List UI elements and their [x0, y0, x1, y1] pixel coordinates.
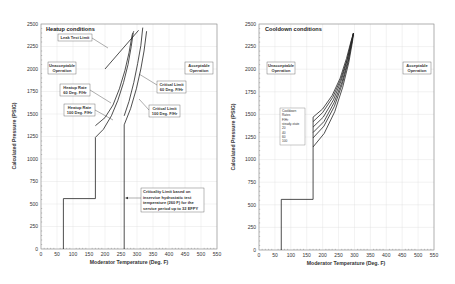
heatup-plot: 02505007501000125015001750200022502500 0… [0, 0, 228, 284]
series-line [124, 31, 146, 249]
x-tick-label: 250 [334, 252, 343, 258]
x-tick-label: 550 [430, 252, 439, 258]
y-tick-label: 750 [30, 178, 39, 184]
x-tick-label: 100 [69, 251, 78, 257]
svg-text:100: 100 [282, 139, 288, 143]
svg-text:inservice hydrostatic test: inservice hydrostatic test [143, 195, 192, 200]
y-axis-ticks: 02505007501000125015001750200022502500 [27, 21, 42, 252]
leak-test-label: Leak Test Limit [58, 34, 108, 48]
critical-limit-100-label: Critical Limit 100 Deg. F/Hr [139, 99, 180, 117]
svg-text:Operation: Operation [190, 68, 209, 73]
y-tick-label: 2500 [245, 21, 256, 27]
chart-title: Cooldown conditions [265, 26, 322, 32]
svg-text:Criticality Limit based on: Criticality Limit based on [143, 189, 191, 194]
x-tick-label: 400 [382, 252, 391, 258]
series-line [313, 33, 353, 138]
svg-text:60 Deg. F/Hr: 60 Deg. F/Hr [63, 90, 87, 95]
svg-text:temperature (260 F) for the: temperature (260 F) for the [143, 200, 194, 205]
x-tick-label: 200 [101, 251, 110, 257]
heatup-rate-60-label: Heatup Rate 60 Deg. F/Hr [60, 84, 111, 103]
x-tick-label: 50 [272, 252, 278, 258]
svg-text:100 Deg. F/Hr: 100 Deg. F/Hr [67, 110, 93, 115]
y-axis-label: Calculated Pressure (PSIG) [11, 102, 17, 169]
x-axis-label: Moderator Temperature (Deg. F) [307, 260, 386, 266]
y-tick-label: 1500 [245, 111, 256, 117]
heatup-chart: 02505007501000125015001750200022502500 0… [0, 0, 228, 284]
y-tick-label: 2250 [245, 43, 256, 49]
x-tick-label: 300 [133, 251, 142, 257]
svg-text:60 Deg. F/Hr: 60 Deg. F/Hr [160, 87, 184, 92]
x-tick-label: 0 [258, 252, 261, 258]
cooldown-legend: Cooldown Rates F/Hr steady-state 20 40 6… [280, 108, 305, 145]
heatup-rate-100-label: Heatup Rate 100 Deg. F/Hr [64, 104, 113, 120]
svg-text:Operation: Operation [53, 68, 72, 73]
chart-title: Heatup conditions [46, 26, 95, 32]
y-tick-label: 1250 [27, 133, 38, 139]
y-axis-ticks: 02505007501000125015001750200022502500 [245, 21, 260, 253]
x-tick-label: 500 [197, 251, 206, 257]
series-line [95, 31, 133, 126]
x-tick-label: 150 [303, 252, 312, 258]
y-tick-label: 1750 [27, 88, 38, 94]
y-tick-label: 2500 [27, 21, 38, 27]
x-tick-label: 200 [318, 252, 327, 258]
y-tick-label: 2000 [245, 66, 256, 72]
y-tick-label: 1000 [27, 156, 38, 162]
y-axis-label: Calculated Pressure (PSIG) [230, 103, 236, 170]
series-line [313, 33, 353, 127]
svg-text:Leak Test Limit: Leak Test Limit [61, 35, 90, 40]
svg-text:Operation: Operation [272, 68, 291, 73]
cooldown-plot: 02505007501000125015001750200022502500 0… [218, 0, 455, 284]
y-tick-label: 1500 [27, 111, 38, 117]
y-tick-label: 1750 [245, 89, 256, 95]
critical-limit-60-label: Critical Limit 60 Deg. F/Hr [139, 74, 186, 93]
series-line [313, 33, 353, 147]
x-tick-label: 50 [54, 251, 60, 257]
x-tick-label: 250 [117, 251, 126, 257]
unacceptable-operation-label: Unacceptable Operation [48, 62, 76, 74]
x-tick-label: 400 [165, 251, 174, 257]
y-tick-label: 1000 [245, 156, 256, 162]
x-tick-label: 100 [287, 252, 296, 258]
acceptable-operation-label: Acceptable Operation [403, 62, 431, 74]
series-line [105, 30, 139, 69]
y-tick-label: 250 [30, 223, 39, 229]
x-tick-label: 150 [85, 251, 94, 257]
y-tick-label: 0 [253, 247, 256, 253]
x-tick-label: 450 [398, 252, 407, 258]
x-tick-label: 300 [350, 252, 359, 258]
acceptable-operation-label: Acceptable Operation [185, 62, 213, 74]
y-tick-label: 2000 [27, 66, 38, 72]
x-tick-label: 350 [366, 252, 375, 258]
x-tick-label: 450 [181, 251, 190, 257]
x-tick-label: 0 [40, 251, 43, 257]
y-tick-label: 500 [248, 202, 257, 208]
x-tick-label: 500 [414, 252, 423, 258]
svg-text:service period up to 32 EFPY: service period up to 32 EFPY [143, 206, 198, 211]
x-axis-label: Moderator Temperature (Deg. F) [90, 259, 169, 265]
y-tick-label: 2250 [27, 43, 38, 49]
y-tick-label: 1250 [245, 134, 256, 140]
series-line [313, 33, 353, 132]
y-tick-label: 250 [248, 224, 257, 230]
y-tick-label: 750 [248, 179, 257, 185]
y-tick-label: 500 [30, 201, 39, 207]
y-tick-label: 0 [35, 246, 38, 252]
cooldown-chart: 02505007501000125015001750200022502500 0… [218, 0, 446, 284]
svg-text:100 Deg. F/Hr: 100 Deg. F/Hr [152, 111, 178, 116]
x-tick-label: 350 [149, 251, 158, 257]
svg-text:Operation: Operation [408, 68, 427, 73]
unacceptable-operation-label: Unacceptable Operation [267, 62, 295, 74]
